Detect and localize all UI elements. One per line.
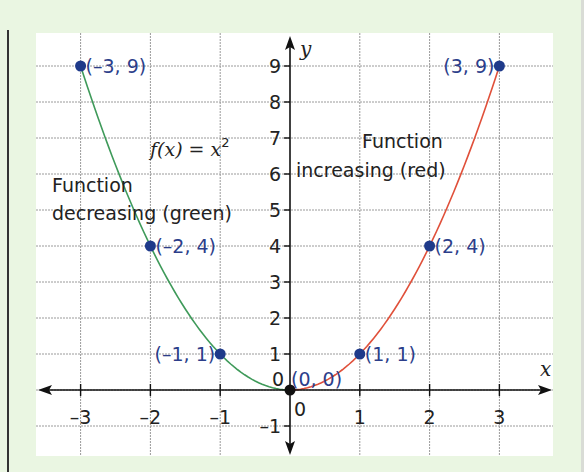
y-tick-label: 8: [269, 91, 281, 113]
y-tick-label: –1: [259, 415, 281, 437]
data-point-label: (2, 4): [435, 235, 486, 257]
y-tick-label: 6: [269, 163, 281, 185]
y-tick-label: 5: [269, 199, 281, 221]
annotation-increasing-line1: Function: [362, 130, 443, 152]
origin-label-x: 0: [294, 398, 306, 420]
data-point: [75, 61, 86, 72]
annotation-decreasing-line1: Function: [52, 174, 133, 196]
function-label-text: f(x) = x: [148, 138, 222, 160]
x-tick-label: 2: [424, 406, 436, 428]
curve-decreasing-green: [81, 66, 290, 390]
y-tick-label: 1: [269, 343, 281, 365]
data-point: [494, 61, 505, 72]
x-axis-label: x: [540, 357, 551, 381]
function-label-exponent: 2: [221, 135, 229, 150]
y-axis-label: y: [299, 37, 312, 61]
y-tick-label: 3: [269, 271, 281, 293]
data-point-label: (3, 9): [443, 55, 494, 77]
x-tick-label: –3: [70, 406, 92, 428]
parabola-chart: –3–2–1123–1123456789 x y 0 0 f(x) = x2 F…: [0, 0, 584, 472]
data-point: [145, 241, 156, 252]
y-tick-label: 2: [269, 307, 281, 329]
y-tick-label: 7: [269, 127, 281, 149]
annotation-decreasing-line2: decreasing (green): [52, 202, 232, 224]
data-point: [354, 349, 365, 360]
data-point-label: (0, 0): [291, 368, 342, 390]
x-tick-label: –1: [209, 406, 231, 428]
data-point-label: (–1, 1): [155, 343, 216, 365]
curve-increasing-red: [290, 66, 499, 390]
y-tick-label: 9: [269, 55, 281, 77]
y-tick-label: 4: [269, 235, 281, 257]
x-tick-label: 1: [354, 406, 366, 428]
x-tick-label: –2: [140, 406, 162, 428]
data-point-label: (–3, 9): [86, 55, 147, 77]
origin-label-y: 0: [272, 368, 284, 390]
data-point: [424, 241, 435, 252]
data-point-label: (–2, 4): [155, 235, 216, 257]
annotation-increasing-line2: increasing (red): [296, 159, 446, 181]
function-label: f(x) = x2: [148, 135, 230, 160]
data-point: [215, 349, 226, 360]
x-tick-label: 3: [493, 406, 505, 428]
data-point-label: (1, 1): [365, 343, 416, 365]
